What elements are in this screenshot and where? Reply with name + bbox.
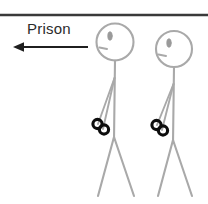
- figure-right-leg-right: [173, 140, 192, 196]
- figure-left-mouth: [100, 48, 108, 50]
- prison-direction-arrow: [13, 42, 88, 52]
- figure-left-head: [97, 24, 134, 61]
- figure-left-leg-right: [114, 137, 134, 196]
- figure-left-eye: [108, 32, 112, 40]
- prison-label: Prison: [27, 20, 71, 38]
- figure-right-leg-left: [158, 140, 173, 196]
- figure-left-torso: [114, 61, 115, 141]
- illustration-canvas: Prison: [0, 0, 208, 204]
- figure-left-handcuffs-icon: [93, 119, 109, 134]
- figure-right-head: [156, 31, 192, 67]
- figure-right-eye: [167, 39, 171, 47]
- figure-right-handcuffs-icon: [152, 120, 168, 135]
- figure-right-mouth: [159, 55, 167, 57]
- arrow-head-icon: [13, 42, 24, 52]
- stick-figure-left: [97, 24, 135, 197]
- figure-right-torso: [173, 67, 174, 143]
- figure-left-leg-left: [98, 137, 114, 196]
- stick-figure-right: [156, 31, 192, 196]
